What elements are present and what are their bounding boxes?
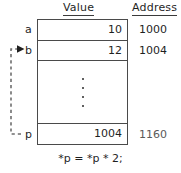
pointer-arrowhead-icon bbox=[17, 45, 25, 53]
address-p: 1160 bbox=[139, 129, 167, 141]
ellipsis-dot bbox=[82, 96, 84, 98]
vertical-ellipsis-icon bbox=[38, 61, 127, 123]
table-row: 1004 bbox=[38, 124, 127, 144]
cell-value-a: 10 bbox=[108, 24, 122, 36]
table-row: 12 bbox=[38, 41, 127, 61]
ellipsis-dot bbox=[82, 87, 84, 89]
ellipsis-dot bbox=[82, 78, 84, 80]
table-row-elided bbox=[38, 61, 127, 124]
column-header-address: Address bbox=[132, 2, 177, 16]
column-header-value: Value bbox=[63, 2, 94, 16]
memory-pointer-diagram: Value Address 10 12 1004 1000 1004 1160 … bbox=[0, 0, 181, 173]
variable-label-p: p bbox=[25, 129, 32, 141]
pointer-dashed-line bbox=[11, 49, 21, 134]
cell-value-p: 1004 bbox=[94, 128, 122, 140]
variable-label-b: b bbox=[25, 45, 32, 57]
caption-expression: *p = *p * 2; bbox=[0, 152, 181, 165]
address-b: 1004 bbox=[139, 45, 167, 57]
cell-value-b: 12 bbox=[108, 45, 122, 57]
variable-label-a: a bbox=[25, 24, 32, 36]
ellipsis-dot bbox=[82, 105, 84, 107]
address-a: 1000 bbox=[139, 24, 167, 36]
table-row: 10 bbox=[38, 20, 127, 41]
memory-table: 10 12 1004 bbox=[37, 19, 128, 145]
